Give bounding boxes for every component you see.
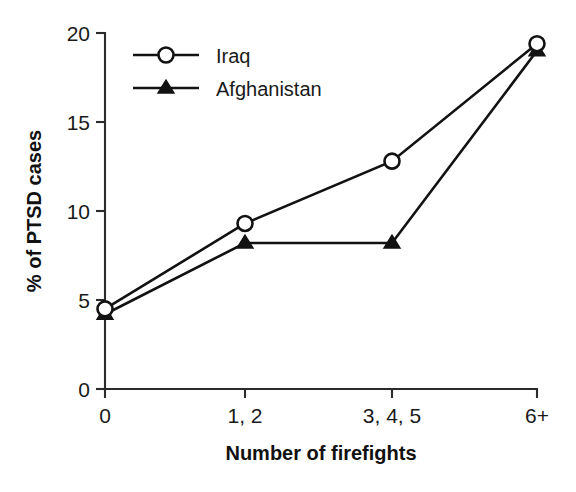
y-tick-label-10: 10 bbox=[67, 200, 90, 223]
x-tick-label-3: 6+ bbox=[525, 404, 549, 427]
y-axis-title: % of PTSD cases bbox=[23, 130, 45, 292]
chart-figure: 20 15 10 5 0 0 1, 2 3, 4, 5 6+ % of PTSD… bbox=[0, 0, 576, 492]
legend-entry-afghanistan: Afghanistan bbox=[133, 78, 322, 100]
legend-label-afghanistan: Afghanistan bbox=[216, 78, 322, 100]
y-tick-label-5: 5 bbox=[78, 289, 90, 312]
x-tick-label-0: 0 bbox=[99, 404, 111, 427]
x-tick-label-2: 3, 4, 5 bbox=[363, 404, 421, 427]
iraq-point-1 bbox=[238, 216, 253, 231]
x-tick-label-1: 1, 2 bbox=[227, 404, 262, 427]
iraq-point-0 bbox=[98, 301, 113, 316]
legend-entry-iraq: Iraq bbox=[133, 45, 250, 67]
line-chart-svg: 20 15 10 5 0 0 1, 2 3, 4, 5 6+ % of PTSD… bbox=[0, 0, 576, 492]
afghanistan-point-1 bbox=[237, 235, 253, 248]
x-tick-labels: 0 1, 2 3, 4, 5 6+ bbox=[99, 404, 549, 427]
y-tick-label-0: 0 bbox=[78, 378, 90, 401]
y-tick-labels: 20 15 10 5 0 bbox=[67, 22, 90, 401]
filled-triangle-marker-icon bbox=[158, 80, 174, 93]
legend-label-iraq: Iraq bbox=[216, 45, 250, 67]
chart-legend: Iraq Afghanistan bbox=[133, 45, 322, 100]
iraq-point-3 bbox=[530, 36, 545, 51]
open-circle-marker-icon bbox=[159, 48, 174, 63]
iraq-point-2 bbox=[385, 154, 400, 169]
y-tick-label-20: 20 bbox=[67, 22, 90, 45]
x-axis-title: Number of firefights bbox=[225, 442, 416, 464]
y-tick-label-15: 15 bbox=[67, 111, 90, 134]
